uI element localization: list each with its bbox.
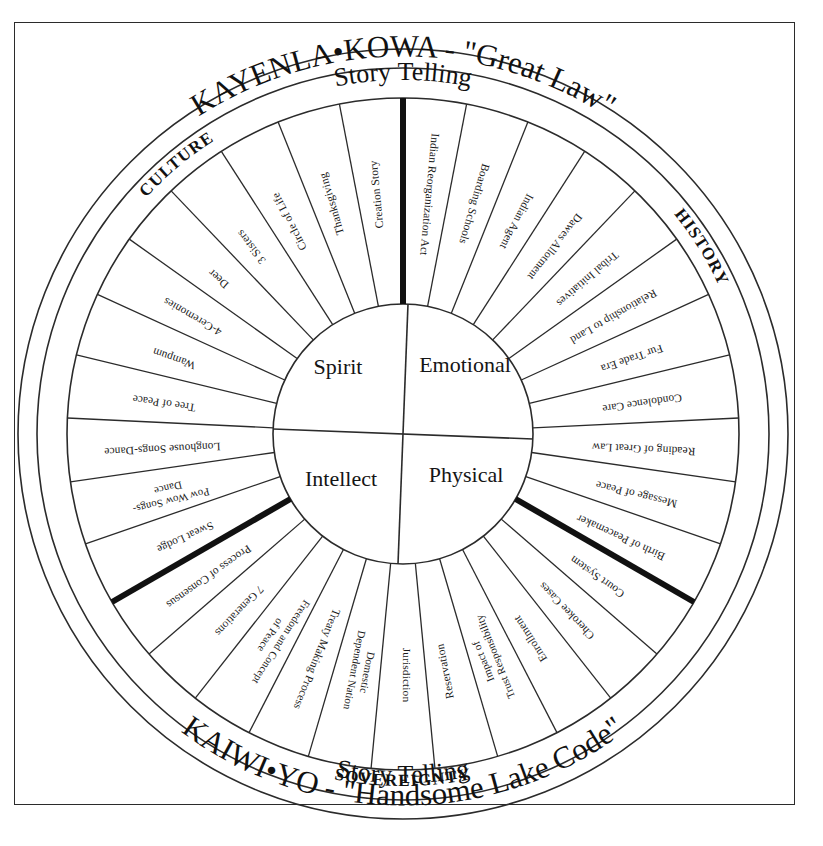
segment-tree-of-peace[interactable]: Tree of Peace bbox=[132, 393, 197, 414]
segment-process-of-consensus[interactable]: Process of Consensus bbox=[164, 543, 253, 611]
medicine-wheel-diagram: Indian Reorganization ActBoarding School… bbox=[0, 0, 823, 846]
segment-4-ceremonies[interactable]: 4-Ceremonies bbox=[161, 295, 224, 338]
segment-label: Wampum bbox=[151, 346, 197, 372]
quadrant-label-culture: CULTURE bbox=[135, 127, 217, 200]
segment-pow-wow-songs-dance[interactable]: Pow Wow Songs-Dance bbox=[128, 473, 210, 516]
segment-label: Dawes Allotment bbox=[525, 212, 585, 284]
segment-label: 3 Sisters bbox=[234, 227, 268, 266]
segment-label: Cherokee Cases bbox=[536, 580, 596, 643]
segment-label: Creation Story bbox=[367, 160, 385, 229]
segment-indian-reorganization-act[interactable]: Indian Reorganization Act bbox=[418, 133, 442, 257]
segment-label: Indian Reorganization Act bbox=[418, 133, 442, 257]
segment-label: Indian Agent bbox=[497, 192, 536, 252]
quadrant-label-history: HISTORY bbox=[671, 205, 733, 289]
segment-label: Circle of Life bbox=[269, 191, 309, 253]
segment-divider-line bbox=[415, 563, 435, 768]
segment-label: Boarding Schools bbox=[457, 162, 492, 245]
segment-fur-trade-era[interactable]: Fur Trade Era bbox=[600, 343, 665, 375]
core-label-spirit: Spirit bbox=[314, 354, 363, 379]
segment-condolence-care[interactable]: Condolence Care bbox=[602, 392, 683, 415]
segment-divider-line bbox=[463, 550, 557, 733]
segment-label: Deer bbox=[206, 267, 231, 291]
segment-label: Tree of Peace bbox=[132, 393, 197, 414]
segment-circle-of-life[interactable]: Circle of Life bbox=[269, 191, 309, 253]
wheel-svg: Indian Reorganization ActBoarding School… bbox=[0, 0, 823, 846]
segment-label: Message of Peace bbox=[594, 479, 678, 510]
segment-label: Condolence Care bbox=[602, 392, 683, 415]
segment-message-of-peace[interactable]: Message of Peace bbox=[594, 479, 678, 510]
core-quadrants: SpiritEmotionalIntellectPhysical bbox=[273, 304, 533, 564]
segment-deer[interactable]: Deer bbox=[206, 267, 231, 291]
core-label-emotional: Emotional bbox=[419, 352, 511, 377]
segment-label: Thanksgiving bbox=[316, 171, 346, 236]
segment-dawes-allotment[interactable]: Dawes Allotment bbox=[525, 212, 585, 284]
segment-wampum[interactable]: Wampum bbox=[151, 346, 197, 372]
segment-boarding-schools[interactable]: Boarding Schools bbox=[457, 162, 492, 245]
segment-divider-line bbox=[70, 453, 274, 482]
segment-label: Fur Trade Era bbox=[600, 343, 665, 375]
segment-divider-line bbox=[67, 418, 273, 428]
segment-enrollment[interactable]: Enrollment bbox=[510, 613, 549, 664]
segment-label: Reading of Great Law bbox=[591, 441, 696, 458]
segment-cherokee-cases[interactable]: Cherokee Cases bbox=[536, 580, 596, 643]
segment-jurisdiction[interactable]: Jurisdiction bbox=[401, 648, 413, 703]
segment-label: Tribal Initiatives bbox=[554, 249, 621, 309]
core-label-physical: Physical bbox=[429, 462, 504, 487]
segment-reading-of-great-law[interactable]: Reading of Great Law bbox=[591, 441, 696, 458]
segment-3-sisters[interactable]: 3 Sisters bbox=[234, 227, 268, 266]
segment-label: Enrollment bbox=[510, 613, 549, 664]
segment-tribal-initiatives[interactable]: Tribal Initiatives bbox=[554, 249, 621, 309]
segment-label: Longhouse Songs-Dance bbox=[104, 441, 221, 459]
title-top-inner: Story Telling bbox=[332, 57, 475, 92]
segment-label: Jurisdiction bbox=[401, 648, 413, 703]
segment-divider-line bbox=[532, 453, 736, 482]
segment-label: 4-Ceremonies bbox=[161, 295, 224, 338]
segment-label: Reservation bbox=[434, 643, 456, 700]
segment-divider-line bbox=[129, 239, 297, 358]
core-label-intellect: Intellect bbox=[305, 466, 377, 491]
segment-domestic-dependent-nation[interactable]: DomesticDependent Nation bbox=[341, 630, 381, 714]
segment-indian-agent[interactable]: Indian Agent bbox=[497, 192, 536, 252]
segment-creation-story[interactable]: Creation Story bbox=[367, 160, 385, 229]
segment-label: Process of Consensus bbox=[164, 543, 253, 611]
segment-reservation[interactable]: Reservation bbox=[434, 643, 456, 700]
segment-longhouse-songs-dance[interactable]: Longhouse Songs-Dance bbox=[104, 441, 221, 459]
segment-thanksgiving[interactable]: Thanksgiving bbox=[316, 171, 346, 236]
segment-divider-line bbox=[533, 418, 739, 428]
